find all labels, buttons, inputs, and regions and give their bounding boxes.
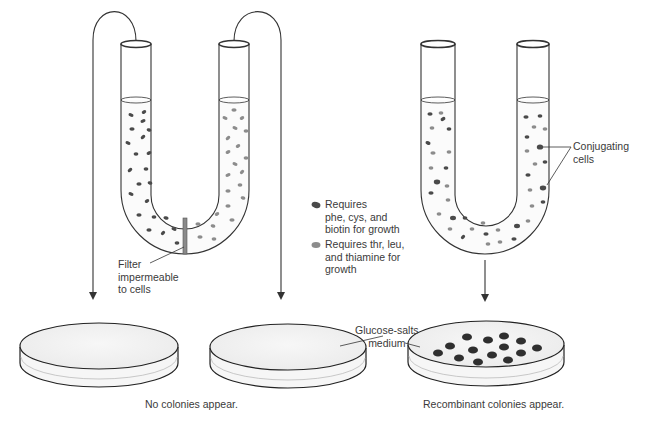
legend-text-light: Requires thr, leu, and thiamine for grow… (325, 238, 404, 276)
light-cell-icon (312, 242, 321, 248)
arrow-down-icon (481, 294, 489, 302)
petri-dish-right (408, 321, 564, 386)
recombinant-colonies-label: Recombinant colonies appear. (423, 398, 564, 411)
legend-item-light: Requires thr, leu, and thiamine for grow… (325, 238, 404, 276)
conjugating-cells-label: Conjugating cells (573, 140, 629, 165)
filter-label: Filter impermeable to cells (118, 258, 179, 296)
arrow-down-icon (89, 292, 97, 300)
no-colonies-label: No colonies appear. (145, 398, 238, 411)
dark-cell-icon (311, 201, 321, 209)
arrow-down-icon (277, 292, 285, 300)
experiment-diagram (0, 0, 646, 423)
legend-item-dark: Requires phe, cys, and biotin for growth (325, 198, 400, 236)
petri-dish-middle (210, 324, 366, 388)
medium-label: Glucose-salts medium (355, 324, 419, 349)
petri-dish-left (20, 323, 178, 387)
u-tube-with-filter (121, 41, 249, 255)
legend-text-dark: Requires phe, cys, and biotin for growth (325, 198, 400, 236)
